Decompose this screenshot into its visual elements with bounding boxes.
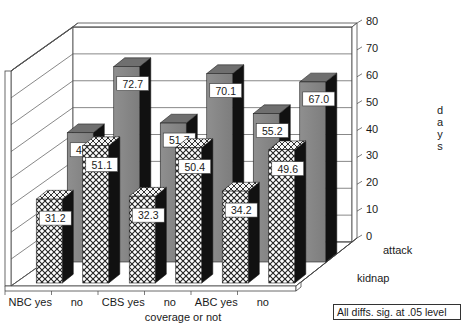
bar: 49.6 — [269, 141, 306, 283]
value-label: 32.3 — [138, 209, 159, 221]
y-tick-label: 50 — [366, 96, 378, 108]
bar: 50.4 — [176, 139, 213, 283]
value-label: 67.0 — [309, 93, 330, 105]
value-label: 34.2 — [231, 204, 252, 216]
y-axis-title-letter: d — [435, 104, 445, 116]
y-tick-label: 60 — [366, 69, 378, 81]
x-tick-label: no — [71, 296, 83, 308]
y-tick-label: 20 — [366, 176, 378, 188]
value-label: 70.1 — [216, 85, 237, 97]
y-axis-title-letter: a — [435, 116, 445, 128]
value-label: 50.4 — [185, 161, 206, 173]
value-label: 31.2 — [45, 212, 66, 224]
y-tick-label: 40 — [366, 123, 378, 135]
y-tick-label: 80 — [366, 15, 378, 27]
y-tick-label: 0 — [366, 230, 372, 242]
x-tick-label: no — [164, 296, 176, 308]
y-axis-title-letter: s — [435, 140, 445, 152]
bar: 51.1 — [83, 137, 120, 283]
bar: 32.3 — [129, 187, 166, 283]
value-label: 72.7 — [123, 78, 144, 90]
bar-chart-3d: 48.172.751.770.155.267.0 31.251.132.350.… — [0, 0, 465, 335]
significance-note: All diffs. sig. at .05 level — [333, 304, 461, 320]
y-tick-label: 10 — [366, 203, 378, 215]
x-tick-label: ABC yes — [195, 296, 238, 308]
bar: 34.2 — [222, 182, 259, 283]
x-axis-title: coverage or not — [145, 311, 221, 323]
value-label: 51.1 — [92, 159, 113, 171]
value-label: 55.2 — [262, 125, 283, 137]
y-tick-label: 30 — [366, 149, 378, 161]
depth-label-attack: attack — [383, 244, 413, 256]
x-tick-label: NBC yes — [9, 296, 53, 308]
x-tick-label: CBS yes — [102, 296, 145, 308]
depth-label-kidnap: kidnap — [357, 272, 389, 284]
x-tick-label: no — [257, 296, 269, 308]
y-axis-title: d a y s — [435, 104, 445, 152]
bar: 31.2 — [36, 190, 73, 283]
y-axis-title-letter: y — [435, 128, 445, 140]
value-label: 49.6 — [278, 163, 299, 175]
y-tick-label: 70 — [366, 42, 378, 54]
